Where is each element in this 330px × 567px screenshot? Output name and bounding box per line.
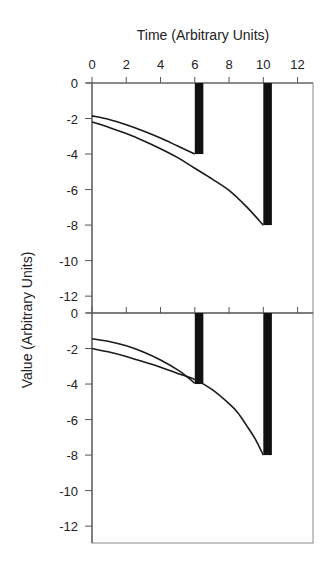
bar — [263, 83, 272, 225]
y-tick-label: -12 — [59, 519, 78, 534]
x-tick-label: 12 — [290, 57, 304, 72]
y-tick-label: -6 — [66, 183, 78, 198]
y-tick-label: -10 — [59, 484, 78, 499]
x-tick-label: 2 — [123, 57, 130, 72]
bar — [195, 83, 204, 154]
y-tick-label: -6 — [66, 413, 78, 428]
bar — [263, 313, 272, 455]
series-line-curve-1 — [92, 339, 195, 383]
x-tick-label: 8 — [225, 57, 232, 72]
y-tick-label: -8 — [66, 218, 78, 233]
bottom-panel: 0-2-4-6-8-10-12 — [59, 306, 313, 543]
y-tick-label: -4 — [66, 147, 78, 162]
x-tick-label: 10 — [256, 57, 270, 72]
y-tick-label: -2 — [66, 342, 78, 357]
series-line-curve-1 — [92, 116, 195, 154]
top-panel: 0-2-4-6-8-10-12 — [59, 76, 313, 313]
series-line-curve-2 — [92, 122, 263, 225]
y-tick-label: -2 — [66, 112, 78, 127]
y-tick-label: 0 — [71, 76, 78, 91]
x-axis-ticks: 024681012 — [88, 57, 304, 83]
x-tick-label: 6 — [191, 57, 198, 72]
chart: Time (Arbitrary Units) 024681012 0-2-4-6… — [0, 0, 330, 567]
y-tick-label: -10 — [59, 254, 78, 269]
y-tick-label: -12 — [59, 289, 78, 304]
x-tick-label: 0 — [88, 57, 95, 72]
x-tick-label: 4 — [157, 57, 164, 72]
bar — [195, 313, 204, 384]
series-line-curve-2 — [92, 349, 263, 456]
y-tick-label: -4 — [66, 377, 78, 392]
y-axis-title: Value (Arbitrary Units) — [19, 252, 35, 389]
y-tick-label: -8 — [66, 448, 78, 463]
x-axis-title: Time (Arbitrary Units) — [137, 27, 270, 43]
y-tick-label: 0 — [71, 306, 78, 321]
